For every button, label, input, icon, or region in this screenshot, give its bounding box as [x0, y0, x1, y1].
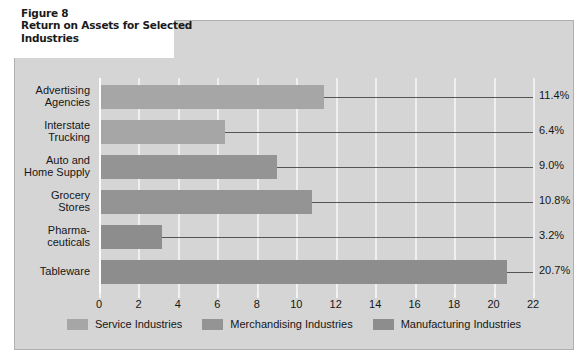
category-label-line: Trucking: [0, 131, 90, 143]
category-label: Pharma-ceuticals: [0, 224, 90, 248]
category-label: Tableware: [0, 265, 90, 277]
legend-label: Merchandising Industries: [230, 318, 352, 330]
bar-row: 9.0%Auto andHome Supply: [99, 155, 533, 179]
bar-row: 11.4%AdvertisingAgencies: [99, 85, 533, 109]
category-label-line: Stores: [0, 201, 90, 213]
x-tick-label: 6: [214, 298, 220, 310]
y-axis-line: [99, 78, 101, 293]
bar: [99, 260, 507, 284]
x-tick-label: 2: [135, 298, 141, 310]
value-leader-line: [225, 132, 533, 133]
category-label-line: Auto and: [0, 154, 90, 166]
bar-value-label: 9.0%: [539, 159, 564, 171]
bar-row: 6.4%InterstateTrucking: [99, 120, 533, 144]
x-tick-label: 16: [409, 298, 421, 310]
chart-legend: Service IndustriesMerchandising Industri…: [14, 318, 574, 330]
figure-title-block: Figure 8 Return on Assets for Selected I…: [0, 0, 174, 58]
value-leader-line: [162, 237, 533, 238]
legend-item: Merchandising Industries: [202, 318, 352, 330]
category-label: InterstateTrucking: [0, 119, 90, 143]
x-tick-label: 4: [175, 298, 181, 310]
bar: [99, 155, 277, 179]
category-label-line: Grocery: [0, 189, 90, 201]
plot-area: 11.4%AdvertisingAgencies6.4%InterstateTr…: [99, 78, 533, 293]
figure-container: 11.4%AdvertisingAgencies6.4%InterstateTr…: [0, 0, 588, 358]
legend-swatch-merchandising: [202, 319, 223, 330]
legend-label: Manufacturing Industries: [401, 318, 521, 330]
category-label: Auto andHome Supply: [0, 154, 90, 178]
x-tick-label: 14: [369, 298, 381, 310]
bar-value-label: 20.7%: [539, 264, 570, 276]
category-label-line: Tableware: [0, 265, 90, 277]
bar-row: 20.7%Tableware: [99, 260, 533, 284]
category-label-line: ceuticals: [0, 236, 90, 248]
bar-value-label: 6.4%: [539, 124, 564, 136]
legend-label: Service Industries: [95, 318, 182, 330]
value-leader-line: [312, 202, 533, 203]
x-tick-label: 20: [487, 298, 499, 310]
figure-title-line-2: Industries: [21, 32, 166, 44]
legend-swatch-service: [67, 319, 88, 330]
bar-row: 3.2%Pharma-ceuticals: [99, 225, 533, 249]
legend-item: Service Industries: [67, 318, 182, 330]
bar-value-label: 3.2%: [539, 229, 564, 241]
bar-value-label: 11.4%: [539, 89, 569, 101]
legend-swatch-manufacturing: [373, 319, 394, 330]
bar: [99, 225, 162, 249]
category-label-line: Agencies: [0, 96, 90, 108]
figure-title-line-1: Return on Assets for Selected: [21, 19, 166, 31]
value-leader-line: [277, 167, 533, 168]
figure-number: Figure 8: [21, 7, 166, 19]
bar: [99, 190, 312, 214]
x-axis: 0246810121416182022: [99, 293, 533, 311]
x-tick-label: 10: [290, 298, 302, 310]
value-leader-line: [324, 97, 533, 98]
category-label: AdvertisingAgencies: [0, 84, 90, 108]
bar-value-label: 10.8%: [539, 194, 570, 206]
x-tick-label: 18: [448, 298, 460, 310]
x-tick-label: 0: [96, 298, 102, 310]
bar: [99, 85, 324, 109]
category-label: GroceryStores: [0, 189, 90, 213]
bar-row: 10.8%GroceryStores: [99, 190, 533, 214]
legend-item: Manufacturing Industries: [373, 318, 521, 330]
bar: [99, 120, 225, 144]
gridline: [533, 78, 535, 293]
x-tick-label: 8: [254, 298, 260, 310]
value-leader-line: [507, 272, 533, 273]
category-label-line: Home Supply: [0, 166, 90, 178]
category-label-line: Pharma-: [0, 224, 90, 236]
category-label-line: Advertising: [0, 84, 90, 96]
x-tick-label: 12: [330, 298, 342, 310]
category-label-line: Interstate: [0, 119, 90, 131]
x-tick-label: 22: [527, 298, 539, 310]
